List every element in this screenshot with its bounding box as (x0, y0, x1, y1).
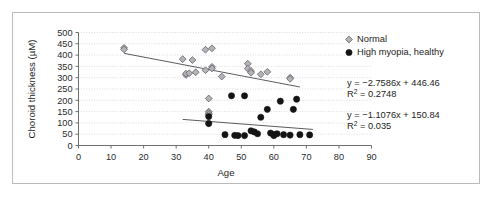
x-tick-label: 40 (204, 152, 214, 162)
data-point-high-myopia (254, 131, 260, 137)
y-tick-label: 0 (67, 141, 72, 151)
data-point-high-myopia (206, 113, 212, 119)
x-tick-label: 50 (236, 152, 246, 162)
equation-high-myopia-line: y = −1.1076x + 150.84 (347, 110, 440, 120)
equation-annotation-high-myopia: y = −1.1076x + 150.84 R2 = 0.035 (347, 110, 440, 131)
r2-normal: R2 = 0.2748 (347, 88, 396, 99)
legend-label-high-myopia: High myopia, healthy (357, 47, 444, 57)
data-point-normal (257, 71, 264, 78)
y-tick-label: 400 (57, 50, 72, 60)
data-point-high-myopia (206, 120, 212, 126)
legend: Normal High myopia, healthy (346, 34, 445, 57)
legend-label-normal: Normal (357, 34, 387, 44)
data-point-high-myopia (274, 131, 280, 137)
data-point-high-myopia (228, 93, 234, 99)
x-tick-label: 30 (171, 152, 181, 162)
data-point-high-myopia (258, 114, 264, 120)
equation-normal-line: y = −2.7586x + 446.46 (347, 78, 440, 88)
legend-circle-icon (346, 49, 352, 55)
x-tick-label: 70 (301, 152, 311, 162)
y-tick-label: 300 (57, 73, 72, 83)
data-point-normal (209, 45, 216, 52)
y-axis-ticks-group: 050100150200250300350400450500 (57, 28, 78, 151)
data-point-high-myopia (277, 98, 283, 104)
data-point-normal (192, 69, 199, 76)
x-tick-label: 60 (269, 152, 279, 162)
r2-high-myopia: R2 = 0.035 (347, 120, 391, 131)
data-point-high-myopia (241, 132, 247, 138)
data-point-normal (179, 56, 186, 63)
scatter-chart: 050100150200250300350400450500 010203040… (0, 0, 493, 198)
y-tick-label: 500 (57, 28, 72, 38)
data-point-high-myopia (290, 106, 296, 112)
trendlines-group (124, 53, 313, 129)
x-tick-label: 80 (334, 152, 344, 162)
r2-myopia-value: = 0.035 (357, 121, 391, 131)
data-point-high-myopia (307, 132, 313, 138)
x-tick-label: 10 (106, 152, 116, 162)
data-point-high-myopia (297, 132, 303, 138)
trendline-high-myopia-healthy (183, 119, 313, 129)
y-tick-label: 100 (57, 118, 72, 128)
y-tick-label: 450 (57, 39, 72, 49)
data-point-normal (189, 57, 196, 64)
data-point-normal (205, 95, 212, 102)
data-point-high-myopia (235, 132, 241, 138)
y-tick-label: 250 (57, 84, 72, 94)
y-axis-title: Choroid thickness (µM) (26, 40, 37, 139)
x-axis-ticks-group: 0102030405060708090 (76, 146, 377, 162)
x-axis-title: Age (217, 167, 234, 178)
data-point-normal (202, 46, 209, 53)
x-tick-label: 90 (366, 152, 376, 162)
series-high-myopia-points (206, 93, 313, 139)
x-tick-label: 0 (76, 152, 81, 162)
x-tick-label: 20 (138, 152, 148, 162)
data-point-normal (218, 73, 225, 80)
y-tick-label: 50 (62, 129, 72, 139)
y-tick-label: 350 (57, 62, 72, 72)
chart-svg: 050100150200250300350400450500 010203040… (0, 0, 493, 198)
r2-normal-value: = 0.2748 (357, 89, 396, 99)
y-tick-label: 200 (57, 96, 72, 106)
data-point-normal (264, 68, 271, 75)
data-point-high-myopia (281, 132, 287, 138)
data-point-normal (202, 67, 209, 74)
y-tick-label: 150 (57, 107, 72, 117)
legend-diamond-icon (346, 36, 353, 43)
data-point-high-myopia (294, 96, 300, 102)
data-point-high-myopia (241, 93, 247, 99)
data-point-high-myopia (222, 132, 228, 138)
data-point-high-myopia (287, 132, 293, 138)
equation-annotation-normal: y = −2.7586x + 446.46 R2 = 0.2748 (347, 78, 440, 99)
data-point-high-myopia (264, 106, 270, 112)
